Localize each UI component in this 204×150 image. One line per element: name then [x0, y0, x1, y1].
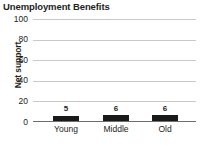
bar-value-old: 6	[152, 105, 178, 113]
y-tick-label-100: 100	[0, 15, 28, 24]
bar-chart: Unemployment Benefits Net support 100 80…	[0, 0, 204, 150]
y-tick-label-80: 80	[0, 35, 28, 44]
bar-old	[152, 115, 178, 121]
plot-area: 5 6 6 Young Middle Old	[33, 19, 196, 122]
gridline-40	[33, 81, 196, 82]
x-tick-label-middle: Middle	[90, 125, 142, 134]
bar-young	[53, 116, 79, 121]
bar-value-middle: 6	[103, 105, 129, 113]
gridline-20	[33, 101, 196, 102]
gridline-60	[33, 60, 196, 61]
y-tick-label-60: 60	[0, 56, 28, 65]
bar-middle	[103, 115, 129, 121]
gridline-100	[33, 19, 196, 20]
x-tick-label-young: Young	[40, 125, 92, 134]
x-tick-label-old: Old	[139, 125, 191, 134]
gridline-80	[33, 40, 196, 41]
axis-baseline	[33, 121, 196, 122]
chart-title: Unemployment Benefits	[3, 1, 110, 12]
bar-value-young: 5	[53, 105, 79, 113]
y-tick-label-40: 40	[0, 76, 28, 85]
y-tick-label-0: 0	[0, 118, 28, 127]
y-tick-label-20: 20	[0, 97, 28, 106]
